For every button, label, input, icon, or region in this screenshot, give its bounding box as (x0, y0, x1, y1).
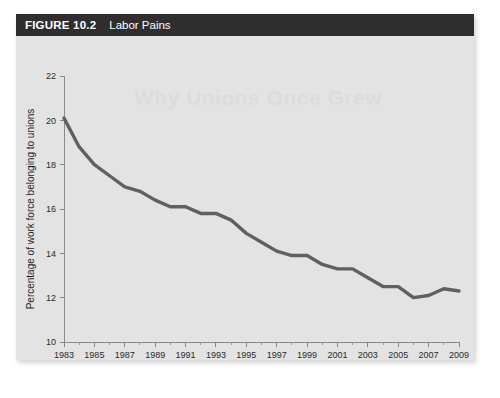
y-tick-label: 16 (46, 204, 56, 214)
axis-lines (64, 76, 459, 342)
x-tick-label: 1985 (84, 350, 104, 360)
y-tick-label: 14 (46, 249, 56, 259)
x-tick-label: 1983 (54, 350, 74, 360)
x-tick-label: 1989 (145, 350, 165, 360)
y-tick-label: 22 (46, 71, 56, 81)
figure-header-bar: FIGURE 10.2 Labor Pains (16, 14, 474, 36)
x-tick-label: 1987 (115, 350, 135, 360)
x-tick-label: 1997 (267, 350, 287, 360)
x-axis-ticks: 1983198519871989199119931995199719992001… (54, 342, 469, 360)
x-tick-label: 2005 (388, 350, 408, 360)
x-tick-label: 2003 (358, 350, 378, 360)
y-tick-label: 10 (46, 337, 56, 347)
chart-area: 10121416182022 1983198519871989199119931… (16, 36, 474, 360)
y-tick-label: 12 (46, 293, 56, 303)
x-tick-label: 1991 (176, 350, 196, 360)
x-tick-label: 1993 (206, 350, 226, 360)
x-tick-label: 2007 (419, 350, 439, 360)
y-tick-label: 20 (46, 116, 56, 126)
union-membership-line (64, 118, 459, 298)
figure-panel: FIGURE 10.2 Labor Pains Why Unions Once … (16, 14, 474, 360)
y-tick-label: 18 (46, 160, 56, 170)
x-tick-label: 2001 (327, 350, 347, 360)
figure-number-label: FIGURE 10.2 (25, 19, 96, 31)
x-tick-label: 1995 (236, 350, 256, 360)
y-axis-ticks: 10121416182022 (46, 71, 64, 347)
line-chart: 10121416182022 1983198519871989199119931… (16, 36, 474, 360)
data-series-layer (64, 118, 459, 298)
x-tick-label: 2009 (449, 350, 469, 360)
x-tick-label: 1999 (297, 350, 317, 360)
figure-title: Labor Pains (109, 19, 170, 31)
y-axis-title: Percentage of work force belonging to un… (25, 109, 36, 310)
